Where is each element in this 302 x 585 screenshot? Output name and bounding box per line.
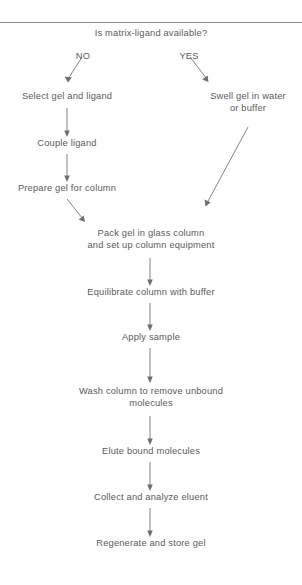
branch-label-yes: YES (172, 51, 206, 63)
node-wash-column: Wash column to remove unbound molecules (60, 386, 242, 409)
edge-wash-elute (147, 416, 153, 445)
node-couple-ligand: Couple ligand (12, 138, 122, 150)
node-elute: Elute bound molecules (80, 446, 222, 458)
flowchart-diagram: Is matrix-ligand available? NO YES Selec… (0, 0, 302, 585)
edge-swell-pack (205, 127, 248, 207)
node-regenerate: Regenerate and store gel (74, 538, 228, 550)
node-apply-sample: Apply sample (95, 332, 207, 344)
edge-collect-regenerate (147, 508, 153, 537)
edge-pack-equilibrate (147, 258, 153, 286)
node-pack-gel: Pack gel in glass column and set up colu… (68, 228, 234, 251)
edge-prepare-pack (67, 199, 85, 222)
node-swell-gel: Swell gel in water or buffer (196, 91, 300, 114)
edge-elute-collect (147, 462, 153, 491)
edge-select-couple (64, 108, 70, 137)
edge-apply-wash (147, 348, 153, 383)
branch-label-no: NO (66, 51, 100, 63)
header-divider-rule (0, 22, 302, 23)
node-collect: Collect and analyze eluent (72, 492, 230, 504)
node-question: Is matrix-ligand available? (51, 28, 251, 40)
node-select-gel: Select gel and ligand (2, 91, 132, 103)
edge-equilibrate-apply (147, 303, 153, 331)
edge-couple-prepare (64, 154, 70, 182)
node-prepare-gel: Prepare gel for column (2, 183, 132, 195)
node-equilibrate: Equilibrate column with buffer (74, 287, 228, 299)
